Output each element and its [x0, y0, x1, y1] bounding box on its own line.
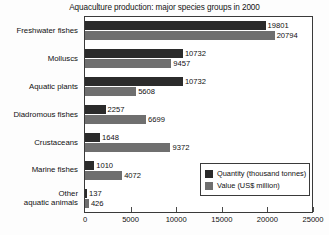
- x-tick-label: 5000: [122, 215, 139, 224]
- x-tick-label: 10000: [166, 215, 187, 224]
- bar-value-label: 10732: [185, 77, 206, 86]
- bar-value-label: 9372: [172, 143, 189, 152]
- x-tickmark: [313, 207, 314, 212]
- bar-value-label: 137: [89, 189, 102, 198]
- bar-quantity: [85, 77, 183, 86]
- bar-value: [85, 143, 170, 152]
- category-label: Diadromous fishes: [13, 110, 78, 120]
- chart-legend: Quantity (thousand tonnes) Value (US$ mi…: [200, 163, 310, 196]
- x-tickmark: [222, 207, 223, 212]
- legend-swatch-quantity-icon: [205, 170, 213, 178]
- category-label: Freshwater fishes: [16, 26, 78, 36]
- bar-value-label: 1010: [96, 161, 113, 170]
- bar-value-label: 2257: [108, 105, 125, 114]
- bar-value-label: 19801: [268, 21, 289, 30]
- x-tickmark: [131, 207, 132, 212]
- x-tick-label: 0: [83, 215, 87, 224]
- category-label-line: Aquatic plants: [29, 82, 78, 91]
- legend-item-quantity: Quantity (thousand tonnes): [205, 168, 305, 179]
- x-axis-tick-labels: 0500010000150002000025000: [0, 215, 329, 229]
- bar-quantity: [85, 161, 94, 170]
- legend-label-value: Value (US$ million): [217, 181, 280, 190]
- bar-value-label: 10732: [185, 49, 206, 58]
- x-axis-tickmarks: [84, 207, 313, 213]
- bar-value-label: 6699: [148, 115, 165, 124]
- category-label: Otheraquatic animals: [24, 189, 78, 208]
- legend-label-quantity: Quantity (thousand tonnes): [217, 169, 306, 178]
- category-label: Aquatic plants: [29, 82, 78, 92]
- bar-quantity: [85, 49, 183, 58]
- category-label-line: Freshwater fishes: [16, 26, 78, 35]
- category-label: Marine fishes: [32, 165, 78, 175]
- category-label: Crustaceans: [34, 138, 78, 148]
- bar-value-label: 20794: [277, 31, 298, 40]
- legend-swatch-value-icon: [205, 182, 213, 190]
- bar-value: [85, 87, 136, 96]
- category-axis-labels: Freshwater fishesMolluscsAquatic plantsD…: [0, 17, 80, 212]
- category-label-line: Crustaceans: [34, 138, 78, 147]
- bar-value-label: 5608: [138, 87, 155, 96]
- chart-title: Aquaculture production: major species gr…: [0, 3, 329, 12]
- legend-item-value: Value (US$ million): [205, 180, 305, 191]
- bar-value-label: 4072: [124, 171, 141, 180]
- bar-value-label: 9457: [173, 59, 190, 68]
- bar-value: [85, 115, 146, 124]
- x-tick-label: 15000: [211, 215, 232, 224]
- x-tickmark: [176, 207, 177, 212]
- category-label-line: Other: [24, 189, 78, 199]
- x-tick-label: 25000: [302, 215, 323, 224]
- bar-value: [85, 171, 122, 180]
- aquaculture-bar-chart: Aquaculture production: major species gr…: [0, 0, 329, 235]
- bar-value-label: 1648: [102, 133, 119, 142]
- category-label: Molluscs: [48, 54, 78, 64]
- category-label-line: aquatic animals: [24, 198, 78, 208]
- x-tick-label: 20000: [257, 215, 278, 224]
- bar-quantity: [85, 21, 266, 30]
- bar-quantity: [85, 133, 100, 142]
- category-label-line: Molluscs: [48, 54, 78, 63]
- category-label-line: Diadromous fishes: [13, 110, 78, 119]
- x-tickmark: [267, 207, 268, 212]
- bar-value: [85, 31, 275, 40]
- bar-quantity: [85, 189, 87, 198]
- category-label-line: Marine fishes: [32, 165, 78, 174]
- bar-quantity: [85, 105, 106, 114]
- bar-value: [85, 59, 171, 68]
